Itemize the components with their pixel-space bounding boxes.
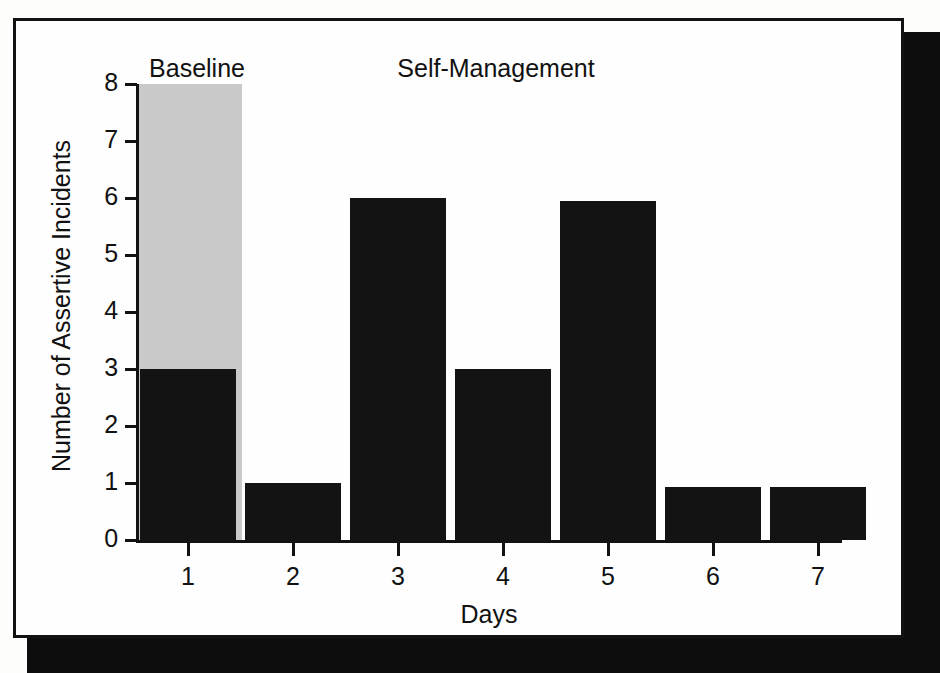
- y-axis-tick-label: 5: [88, 241, 118, 267]
- y-axis-tick: [125, 83, 137, 86]
- bar-day-6: [665, 487, 761, 540]
- y-axis-tick-label-text: 6: [92, 184, 118, 209]
- y-axis-tick-label-text: 8: [92, 70, 118, 95]
- x-axis-tick: [397, 543, 400, 556]
- y-axis-tick-label-text: 7: [92, 127, 118, 152]
- y-axis-tick: [125, 482, 137, 485]
- y-axis-tick-label-text: 3: [92, 355, 118, 380]
- y-axis-tick: [125, 539, 137, 542]
- y-axis-tick: [125, 140, 137, 143]
- y-axis-tick-label-text: 1: [92, 469, 118, 494]
- x-axis-tick-label: 1: [168, 562, 208, 590]
- x-axis-tick: [292, 543, 295, 556]
- x-axis-tick: [712, 543, 715, 556]
- bar-day-4: [455, 369, 551, 540]
- x-axis-line: [136, 540, 842, 543]
- y-axis-tick-label: 8: [88, 70, 118, 96]
- x-axis-tick-label: 3: [378, 562, 418, 590]
- bar-day-5: [560, 201, 656, 540]
- figure-frame: Baseline Self-Management Number of Asser…: [13, 18, 904, 638]
- x-axis-tick-label: 2: [273, 562, 313, 590]
- baseline-phase-label: Baseline: [137, 55, 257, 81]
- y-axis-title: Number of Assertive Incidents: [48, 106, 74, 506]
- x-axis-tick: [607, 543, 610, 556]
- y-axis-tick-label: 2: [88, 412, 118, 438]
- x-axis-tick: [502, 543, 505, 556]
- bar-day-7: [770, 487, 866, 540]
- bar-day-3: [350, 198, 446, 540]
- y-axis-tick-label: 4: [88, 298, 118, 324]
- x-axis-tick-label: 4: [483, 562, 523, 590]
- y-axis-tick: [125, 368, 137, 371]
- y-axis-tick-label: 7: [88, 127, 118, 153]
- figure-page: Baseline Self-Management Number of Asser…: [0, 0, 940, 673]
- y-axis-tick: [125, 425, 137, 428]
- plot-area: Baseline Self-Management Number of Asser…: [16, 21, 907, 641]
- y-axis-tick: [125, 311, 137, 314]
- y-axis-tick-label: 6: [88, 184, 118, 210]
- x-axis-tick-label: 7: [798, 562, 838, 590]
- y-axis-tick-label: 3: [88, 355, 118, 381]
- self-management-phase-label: Self-Management: [316, 55, 676, 81]
- x-axis-tick: [817, 543, 820, 556]
- x-axis-tick-label: 6: [693, 562, 733, 590]
- x-axis-tick: [187, 543, 190, 556]
- bar-day-1: [140, 369, 236, 540]
- y-axis-tick-label: 0: [88, 526, 118, 552]
- y-axis-tick: [125, 197, 137, 200]
- y-axis-tick-label-text: 2: [92, 412, 118, 437]
- bar-day-2: [245, 483, 341, 540]
- y-axis-tick-label-text: 4: [92, 298, 118, 323]
- y-axis-tick-label-text: 5: [92, 241, 118, 266]
- y-axis-tick: [125, 254, 137, 257]
- y-axis-tick-label: 1: [88, 469, 118, 495]
- x-axis-title: Days: [136, 601, 842, 627]
- y-axis-tick-label-text: 0: [92, 526, 118, 551]
- x-axis-tick-label: 5: [588, 562, 628, 590]
